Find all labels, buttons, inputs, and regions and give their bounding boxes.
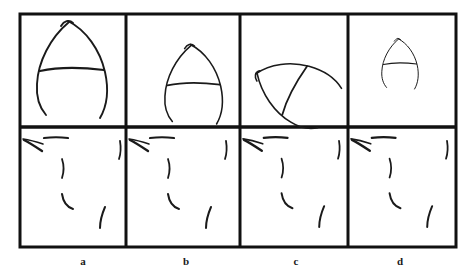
top-panel-c	[243, 44, 344, 135]
bottom-panel-a	[23, 137, 121, 228]
bottom-panel-b	[129, 137, 227, 228]
top-panel-d	[382, 38, 418, 89]
bottom-panel-d	[351, 137, 448, 227]
top-panel-a	[37, 21, 107, 118]
bottom-panel-c	[243, 137, 340, 227]
panel-label-d: d	[380, 255, 420, 267]
panel-label-c: c	[276, 255, 316, 267]
panel-label-a: a	[63, 255, 103, 267]
panel-label-b: b	[166, 255, 206, 267]
grid-frame	[20, 14, 456, 247]
figure-sketch-grid	[0, 0, 470, 280]
top-panel-b	[165, 44, 223, 124]
